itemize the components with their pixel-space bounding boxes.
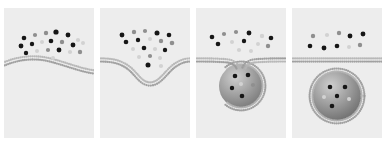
- free-particle: [269, 36, 274, 41]
- panel-flat-membrane-group: [4, 29, 94, 74]
- free-particle: [210, 35, 215, 40]
- free-particle: [249, 49, 253, 53]
- cargo-particle: [230, 86, 234, 90]
- free-particle: [46, 48, 50, 52]
- free-particle: [222, 32, 226, 36]
- cargo-particle: [330, 104, 335, 109]
- free-particle: [237, 48, 241, 52]
- free-particle: [148, 37, 152, 41]
- free-particle: [247, 31, 252, 36]
- free-particle: [146, 63, 151, 68]
- cargo-particle: [328, 85, 333, 90]
- free-particle: [51, 56, 55, 60]
- free-particle: [57, 48, 62, 53]
- free-particle: [120, 33, 125, 38]
- cargo-particle: [240, 94, 245, 99]
- free-particle: [167, 33, 172, 38]
- free-particle: [335, 44, 340, 49]
- free-particle: [66, 33, 71, 38]
- lipid-bilayer: [292, 57, 382, 62]
- panel-invagination: [100, 8, 190, 138]
- free-particle: [256, 42, 260, 46]
- cargo-particle: [246, 73, 251, 78]
- free-particle: [136, 38, 140, 42]
- panel-released-vesicle-canvas: [292, 8, 382, 138]
- panel-released-vesicle-group: [292, 31, 382, 125]
- free-particle: [153, 47, 157, 51]
- cargo-particle: [239, 82, 243, 86]
- cargo-particle: [347, 97, 351, 101]
- free-particle: [158, 56, 162, 60]
- free-particle: [170, 41, 175, 46]
- free-particle: [81, 41, 85, 45]
- figure-root: [0, 0, 384, 147]
- free-particle: [325, 33, 329, 37]
- free-particle: [22, 36, 27, 41]
- free-particle: [308, 44, 313, 49]
- free-particle: [260, 34, 264, 38]
- free-particle: [155, 31, 160, 36]
- lipid-bilayer: [4, 55, 94, 74]
- cargo-particle: [251, 83, 255, 87]
- panel-invagination-canvas: [100, 8, 190, 138]
- free-particle: [30, 42, 34, 46]
- free-particle: [33, 33, 37, 37]
- panel-invagination-group: [100, 29, 190, 87]
- free-particle: [35, 49, 39, 53]
- free-particle: [234, 30, 238, 34]
- free-particle: [142, 46, 147, 51]
- free-particle: [49, 39, 54, 44]
- panel-flat-membrane: [4, 8, 94, 138]
- panel-budding-neck-group: [196, 30, 286, 112]
- free-particle: [131, 47, 135, 51]
- free-particle: [230, 40, 234, 44]
- free-particle: [148, 54, 152, 58]
- free-particle: [322, 46, 327, 51]
- cargo-particle: [233, 74, 238, 79]
- free-particle: [163, 48, 167, 52]
- free-particle: [19, 44, 24, 49]
- free-particle: [137, 55, 141, 59]
- free-particle: [124, 40, 129, 45]
- free-particle: [71, 43, 76, 48]
- free-particle: [347, 45, 351, 49]
- free-particle: [337, 31, 341, 35]
- panel-budding-neck: [196, 8, 286, 138]
- free-particle: [40, 40, 44, 44]
- free-particle: [60, 40, 64, 44]
- free-particle: [266, 44, 270, 48]
- panel-flat-membrane-canvas: [4, 8, 94, 138]
- free-particle: [159, 39, 163, 43]
- free-particle: [53, 29, 58, 34]
- free-particle: [159, 64, 163, 68]
- free-particle: [24, 51, 28, 55]
- free-particle: [44, 31, 48, 35]
- lipid-bilayer: [100, 57, 190, 86]
- cargo-particle: [343, 85, 348, 90]
- cargo-particle: [322, 95, 326, 99]
- free-particle: [143, 29, 147, 33]
- free-particle: [242, 39, 246, 43]
- free-particle: [68, 50, 72, 54]
- free-particle: [76, 38, 80, 42]
- panel-released-vesicle: [292, 8, 382, 138]
- free-particle: [358, 43, 362, 47]
- free-particle: [311, 34, 315, 38]
- free-particle: [348, 34, 353, 39]
- free-particle: [216, 42, 221, 47]
- free-particle: [361, 32, 366, 37]
- free-particle: [78, 50, 82, 54]
- panel-budding-neck-canvas: [196, 8, 286, 138]
- cargo-particle: [335, 94, 339, 98]
- free-particle: [132, 30, 136, 34]
